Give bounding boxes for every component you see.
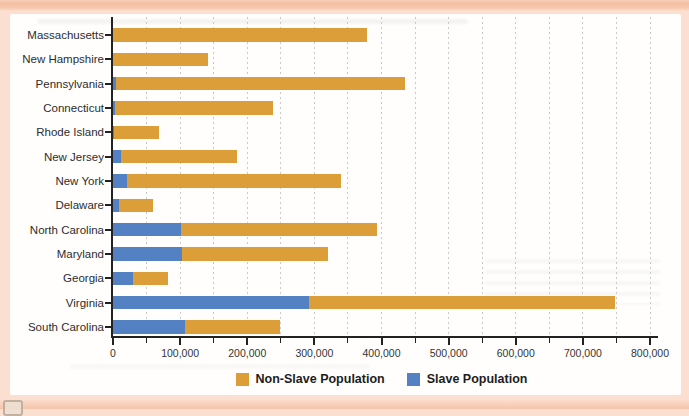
x-tick-major — [179, 338, 181, 345]
y-axis-label: Pennsylvania — [10, 77, 104, 91]
gridline — [616, 17, 617, 336]
gridline — [347, 17, 348, 336]
y-axis-line — [111, 17, 113, 338]
y-axis-label: Rhode Island — [10, 125, 104, 139]
bar-segment-slave — [113, 223, 181, 237]
x-tick-minor — [616, 338, 617, 343]
bar-row-massachusetts — [113, 28, 367, 42]
legend-label-slave: Slave Population — [427, 372, 528, 386]
bar-row-pennsylvania — [113, 77, 405, 91]
x-axis-label: 300,000 — [282, 347, 346, 359]
x-tick-minor — [347, 338, 348, 343]
bar-segment-non-slave — [121, 150, 237, 164]
x-tick-major — [448, 338, 450, 345]
gridline — [515, 17, 516, 336]
x-axis-label: 500,000 — [417, 347, 481, 359]
bar-row-new-jersey — [113, 150, 237, 164]
plot-area: MassachusettsNew HampshirePennsylvaniaCo… — [10, 14, 681, 395]
bar-row-maryland — [113, 247, 328, 261]
y-axis-label: North Carolina — [10, 223, 104, 237]
bar-segment-non-slave — [115, 101, 273, 115]
bar-segment-slave — [113, 247, 182, 261]
x-axis-label: 0 — [81, 347, 145, 359]
bar-segment-non-slave — [133, 272, 169, 286]
bar-segment-non-slave — [182, 247, 327, 261]
legend-swatch-slave — [407, 373, 420, 386]
x-tick-major — [381, 338, 383, 345]
x-tick-minor — [213, 338, 214, 343]
x-tick-minor — [280, 338, 281, 343]
gridline — [482, 17, 483, 336]
bar-row-new-hampshire — [113, 53, 208, 67]
bar-segment-slave — [113, 320, 185, 334]
x-tick-major — [246, 338, 248, 345]
y-axis-label: Maryland — [10, 247, 104, 261]
bar-row-georgia — [113, 272, 168, 286]
x-tick-major — [582, 338, 584, 345]
x-tick-minor — [146, 338, 147, 343]
x-axis-label: 400,000 — [350, 347, 414, 359]
x-axis-line — [111, 336, 658, 338]
gridline — [582, 17, 583, 336]
bar-segment-non-slave — [113, 53, 208, 67]
x-axis-label: 100,000 — [148, 347, 212, 359]
bar-segment-slave — [113, 272, 133, 286]
page-bottom-strip — [0, 399, 689, 409]
bar-row-rhode-island — [113, 126, 159, 140]
bar-segment-non-slave — [113, 28, 367, 42]
page-corner-icon — [3, 400, 23, 416]
gridline — [381, 17, 382, 336]
y-axis-label: Massachusetts — [10, 28, 104, 42]
x-tick-minor — [415, 338, 416, 343]
bar-segment-non-slave — [127, 174, 341, 188]
y-axis-label: New Hampshire — [10, 52, 104, 66]
bar-segment-non-slave — [181, 223, 378, 237]
bar-row-north-carolina — [113, 223, 377, 237]
bar-row-south-carolina — [113, 320, 280, 334]
legend-item-slave-population: Slave Population — [407, 372, 528, 386]
gridline — [448, 17, 449, 336]
y-axis-label: New Jersey — [10, 150, 104, 164]
x-tick-major — [112, 338, 114, 345]
x-tick-minor — [549, 338, 550, 343]
bar-segment-slave — [113, 174, 127, 188]
gridline — [650, 17, 651, 336]
y-axis-label: Virginia — [10, 296, 104, 310]
x-axis-label: 700,000 — [551, 347, 615, 359]
x-tick-major — [649, 338, 651, 345]
x-axis-label: 800,000 — [618, 347, 682, 359]
legend: Non-Slave Population Slave Population — [113, 372, 650, 386]
bar-segment-slave — [113, 150, 121, 164]
bar-segment-non-slave — [114, 126, 160, 140]
y-axis-label: Georgia — [10, 271, 104, 285]
gridline — [549, 17, 550, 336]
page-top-strip — [0, 0, 689, 11]
x-tick-minor — [482, 338, 483, 343]
bar-row-connecticut — [113, 101, 273, 115]
bar-row-new-york — [113, 174, 341, 188]
legend-item-non-slave-population: Non-Slave Population — [236, 372, 385, 386]
bar-row-virginia — [113, 296, 615, 310]
bar-segment-slave — [113, 296, 309, 310]
chart-panel: MassachusettsNew HampshirePennsylvaniaCo… — [10, 14, 681, 395]
x-axis-label: 200,000 — [215, 347, 279, 359]
x-axis-label: 600,000 — [484, 347, 548, 359]
legend-swatch-non-slave — [236, 373, 249, 386]
bar-segment-non-slave — [116, 77, 405, 91]
y-axis-label: New York — [10, 174, 104, 188]
y-axis-label: Delaware — [10, 198, 104, 212]
bar-segment-non-slave — [309, 296, 614, 310]
gridline — [415, 17, 416, 336]
bar-row-delaware — [113, 199, 153, 213]
y-axis-label: Connecticut — [10, 101, 104, 115]
bar-segment-non-slave — [185, 320, 280, 334]
bar-segment-non-slave — [119, 199, 153, 213]
y-axis-label: South Carolina — [10, 320, 104, 334]
x-tick-major — [313, 338, 315, 345]
legend-label-non-slave: Non-Slave Population — [256, 372, 385, 386]
x-tick-major — [515, 338, 517, 345]
